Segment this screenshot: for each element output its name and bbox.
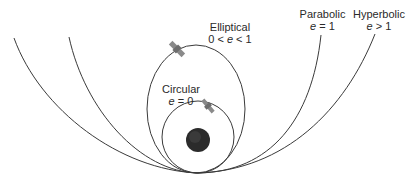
label-parabolic: Parabolic e = 1 [295,8,350,32]
circular-eccentricity: e = 0 [156,95,206,107]
parabolic-orbit-right [198,35,321,173]
hyperbolic-eccentricity: e > 1 [348,20,410,32]
planet-icon [186,128,210,152]
satellite-icon [168,40,186,58]
hyperbolic-orbit-right [198,34,375,173]
hyperbolic-name: Hyperbolic [348,8,410,20]
parabolic-name: Parabolic [295,8,350,20]
circular-name: Circular [156,83,206,95]
label-hyperbolic: Hyperbolic e > 1 [348,8,410,32]
parabolic-eccentricity: e = 1 [295,20,350,32]
label-elliptical: Elliptical 0 < e < 1 [200,21,260,45]
label-circular: Circular e = 0 [156,83,206,107]
elliptical-eccentricity: 0 < e < 1 [200,33,260,45]
elliptical-name: Elliptical [200,21,260,33]
